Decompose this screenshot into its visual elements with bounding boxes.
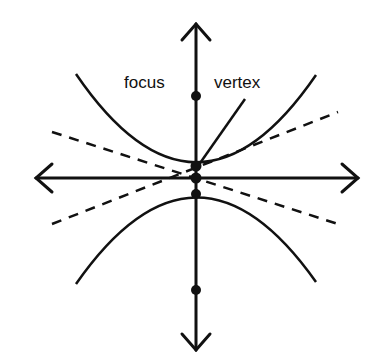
upper-focus-point <box>191 91 201 101</box>
lower-vertex-point <box>191 189 201 199</box>
upper-vertex-point <box>191 161 202 172</box>
lower-focus-point <box>191 285 201 295</box>
focus-label: focus <box>124 74 165 91</box>
center-point <box>191 173 202 184</box>
vertex-pointer-line <box>198 99 245 166</box>
y-axis <box>182 24 210 350</box>
vertex-label: vertex <box>214 74 260 91</box>
hyperbola-diagram <box>0 0 386 363</box>
